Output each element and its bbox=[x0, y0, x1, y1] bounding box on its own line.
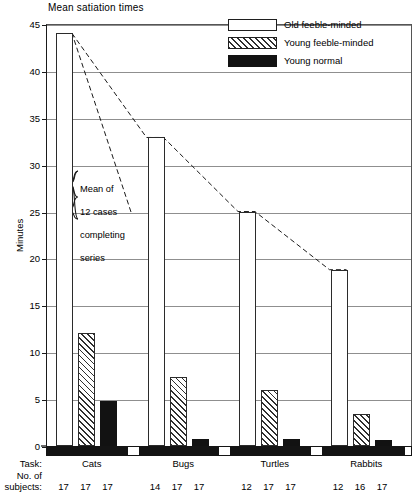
y-axis-tick bbox=[42, 306, 47, 307]
subject-count-cats-young-norm: 17 bbox=[93, 481, 122, 492]
bar-cats-old bbox=[56, 33, 73, 446]
annotation-line-2: 12 cases bbox=[80, 207, 125, 219]
y-axis-tick bbox=[42, 259, 47, 260]
legend-swatch-young-norm bbox=[228, 55, 277, 67]
baseline-strip bbox=[46, 446, 412, 456]
legend-swatch-old bbox=[228, 19, 277, 31]
bar-rabbits-young-norm bbox=[375, 440, 392, 446]
y-axis-tick bbox=[42, 353, 47, 354]
group-label-rabbits: Rabbits bbox=[321, 458, 413, 469]
y-axis-tick-label: 35 bbox=[14, 112, 40, 123]
gridline bbox=[47, 353, 411, 354]
gridline bbox=[47, 166, 411, 167]
bar-cats-young-fm bbox=[78, 333, 95, 446]
subject-count-bugs-young-norm: 17 bbox=[185, 481, 214, 492]
subject-count-turtles-young-norm: 17 bbox=[276, 481, 305, 492]
baseline-gap bbox=[310, 446, 323, 456]
y-axis-tick-label: 25 bbox=[14, 206, 40, 217]
baseline-gap bbox=[404, 446, 412, 456]
bar-turtles-young-norm bbox=[283, 439, 300, 447]
y-axis-tick bbox=[42, 400, 47, 401]
bar-rabbits-old bbox=[331, 270, 348, 446]
bar-cats-young-norm bbox=[100, 401, 117, 446]
subject-count-rabbits-young-norm: 17 bbox=[368, 481, 397, 492]
y-axis-tick-label: 5 bbox=[14, 394, 40, 405]
task-row-label: Task: bbox=[0, 458, 42, 469]
bar-bugs-young-norm bbox=[192, 439, 209, 447]
gridline bbox=[47, 306, 411, 307]
annotation-line-3: completing bbox=[80, 230, 125, 242]
y-axis-tick bbox=[42, 25, 47, 26]
y-axis-tick bbox=[42, 119, 47, 120]
chart-figure: Mean satiation times Minutes Task: No. o… bbox=[0, 0, 420, 501]
baseline-gap bbox=[127, 446, 140, 456]
legend-swatch-young-fm bbox=[228, 37, 277, 49]
y-axis-tick bbox=[42, 213, 47, 214]
bar-bugs-old bbox=[148, 137, 165, 446]
subjects-row-label-line1: No. of bbox=[0, 470, 42, 481]
legend-label-0: Old feeble-minded bbox=[284, 18, 362, 32]
chart-title: Mean satiation times bbox=[48, 2, 144, 13]
bar-bugs-young-fm bbox=[170, 377, 187, 446]
legend-label-2: Young normal bbox=[284, 54, 342, 68]
group-label-bugs: Bugs bbox=[138, 458, 230, 469]
gridline bbox=[47, 119, 411, 120]
y-axis-tick-label: 0 bbox=[14, 441, 40, 452]
baseline-gap bbox=[218, 446, 231, 456]
bar-turtles-old bbox=[239, 212, 256, 446]
y-axis-tick bbox=[42, 166, 47, 167]
bar-rabbits-young-fm bbox=[353, 414, 370, 446]
subjects-row-label-line2: subjects: bbox=[0, 481, 42, 492]
group-label-cats: Cats bbox=[46, 458, 138, 469]
y-axis-tick-label: 40 bbox=[14, 65, 40, 76]
y-axis-tick bbox=[42, 72, 47, 73]
y-axis-label: Minutes bbox=[14, 219, 25, 252]
y-axis-tick-label: 45 bbox=[14, 19, 40, 30]
legend-label-1: Young feeble-minded bbox=[284, 36, 373, 50]
bar-turtles-young-fm bbox=[261, 390, 278, 446]
annotation-text: Mean of 12 cases completing series bbox=[80, 172, 125, 276]
gridline bbox=[47, 72, 411, 73]
y-axis-tick-label: 10 bbox=[14, 347, 40, 358]
y-axis-tick-label: 30 bbox=[14, 159, 40, 170]
group-label-turtles: Turtles bbox=[229, 458, 321, 469]
annotation-line-1: Mean of bbox=[80, 184, 125, 196]
annotation-line-4: series bbox=[80, 253, 125, 265]
y-axis-tick-label: 20 bbox=[14, 253, 40, 264]
y-axis-tick-label: 15 bbox=[14, 300, 40, 311]
